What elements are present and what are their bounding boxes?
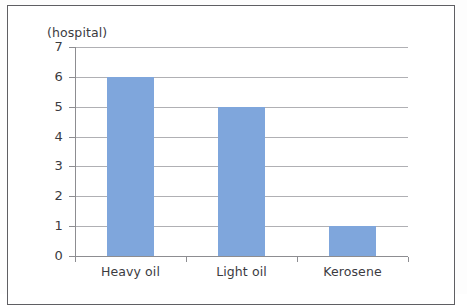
y-axis-tick-label: 7 — [41, 39, 63, 54]
bar — [329, 226, 376, 256]
y-axis-tick-label: 4 — [41, 129, 63, 144]
y-axis-unit-label: (hospital) — [47, 25, 107, 40]
y-axis-tick-label: 3 — [41, 158, 63, 173]
page-border: (hospital) 01234567 Heavy oilLight oilKe… — [7, 5, 455, 305]
y-axis-tick-label: 0 — [41, 248, 63, 263]
gridline — [75, 47, 408, 48]
x-axis-tick — [75, 257, 76, 262]
y-axis-tick-label: 2 — [41, 188, 63, 203]
bar — [218, 107, 265, 256]
y-axis-tick-label: 5 — [41, 99, 63, 114]
x-axis-line — [75, 256, 408, 257]
x-axis-tick — [297, 257, 298, 262]
category-label: Kerosene — [297, 264, 408, 279]
x-axis-tick — [186, 257, 187, 262]
y-axis-tick-label: 6 — [41, 69, 63, 84]
category-label: Heavy oil — [75, 264, 186, 279]
y-axis-line — [75, 47, 76, 257]
y-axis-tick-label: 1 — [41, 218, 63, 233]
category-label: Light oil — [186, 264, 297, 279]
bar — [107, 77, 154, 256]
x-axis-tick — [408, 257, 409, 262]
